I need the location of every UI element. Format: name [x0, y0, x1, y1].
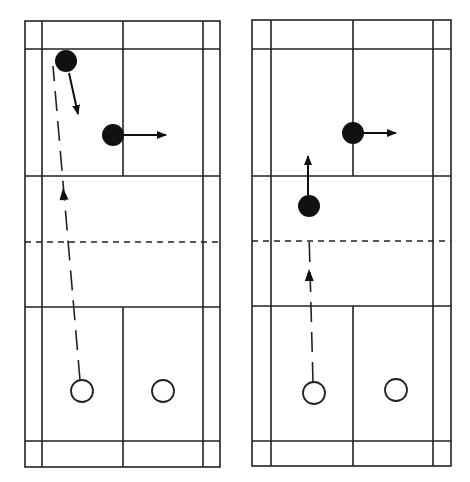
serving-player-icon — [102, 124, 124, 146]
court-right — [252, 20, 451, 466]
shuttle-direction-arrow-icon — [305, 269, 314, 281]
court-left — [25, 21, 220, 467]
receiving-player-icon — [303, 382, 325, 404]
shuttle-path — [53, 66, 80, 380]
receiving-player-icon — [152, 380, 174, 402]
serving-player-icon — [55, 50, 77, 72]
court-boundary — [252, 20, 451, 466]
shuttle-path — [309, 232, 313, 382]
receiving-player-icon — [71, 380, 93, 402]
receiving-player-icon — [385, 379, 407, 401]
badminton-diagram — [0, 0, 470, 482]
serving-player-icon — [298, 195, 320, 217]
movement-arrow-icon — [69, 73, 78, 114]
serving-player-icon — [342, 122, 364, 144]
